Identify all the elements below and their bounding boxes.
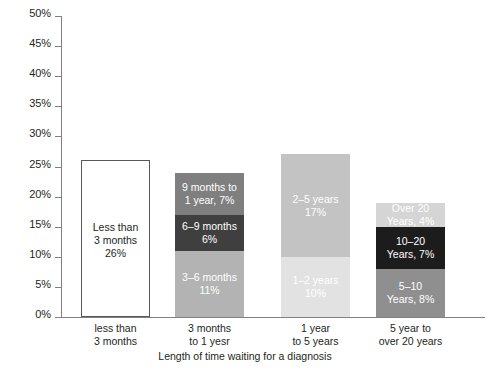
- bar-segment[interactable]: 2–5 years 17%: [281, 154, 350, 256]
- bar-segment[interactable]: 1–2 years 10%: [281, 257, 350, 317]
- bar-column[interactable]: 1–2 years 10%2–5 years 17%: [281, 154, 350, 317]
- y-axis-tick-label: 10%: [29, 249, 51, 260]
- y-axis-tick-label: 25%: [29, 159, 51, 170]
- y-axis-tick-label: 0%: [35, 309, 51, 320]
- y-axis-tick-label: 5%: [35, 279, 51, 290]
- y-axis-tick-label: 15%: [29, 219, 51, 230]
- y-axis-tick-label: 30%: [29, 128, 51, 139]
- x-axis-category-label: 5 year to over 20 years: [356, 322, 465, 348]
- y-axis-tick-label: 50%: [29, 8, 51, 19]
- y-axis-tick-label: 20%: [29, 189, 51, 200]
- x-axis-category-label: 1 year to 5 years: [261, 322, 370, 348]
- y-axis-tick-label: 35%: [29, 98, 51, 109]
- bar-segment[interactable]: 9 months to 1 year, 7%: [175, 173, 244, 215]
- bar-segment[interactable]: 6–9 months 6%: [175, 215, 244, 251]
- x-axis-category-label: 3 months to 1 yesr: [155, 322, 264, 348]
- bar-column[interactable]: 5–10 Years, 8%10–20 Years, 7%Over 20 Yea…: [376, 203, 445, 317]
- plot-area: Less than 3 months 26%3–6 months 11%6–9 …: [61, 16, 485, 317]
- x-axis-title: Length of time waiting for a diagnosis: [0, 350, 490, 362]
- y-axis-tick-mark: [55, 317, 61, 318]
- y-axis-tick-label: 40%: [29, 68, 51, 79]
- bar-column[interactable]: 3–6 months 11%6–9 months 6%9 months to 1…: [175, 173, 244, 317]
- bar-segment[interactable]: 5–10 Years, 8%: [376, 269, 445, 317]
- bar-segment[interactable]: 10–20 Years, 7%: [376, 227, 445, 269]
- x-axis-category-label: less than 3 months: [61, 322, 170, 348]
- bar-segment[interactable]: Over 20 Years, 4%: [376, 203, 445, 227]
- x-axis-line: [61, 317, 485, 318]
- bar-chart: 50%45%40%35%30%25%20%15%10%5%0% Less tha…: [0, 0, 490, 369]
- y-axis-tick-label: 45%: [29, 38, 51, 49]
- bar-segment-label: Less than 3 months 26%: [82, 221, 149, 260]
- bar-segment[interactable]: 3–6 months 11%: [175, 251, 244, 317]
- bar-column[interactable]: Less than 3 months 26%: [81, 160, 150, 317]
